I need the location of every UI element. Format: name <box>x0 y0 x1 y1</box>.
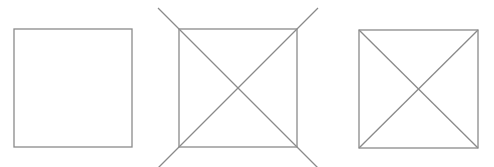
diagram-canvas <box>0 0 494 167</box>
figure-plain-square <box>14 29 132 147</box>
figure-square-diagonals <box>359 30 478 148</box>
square-outline <box>14 29 132 147</box>
figure-square-extended-diagonals <box>158 8 318 167</box>
